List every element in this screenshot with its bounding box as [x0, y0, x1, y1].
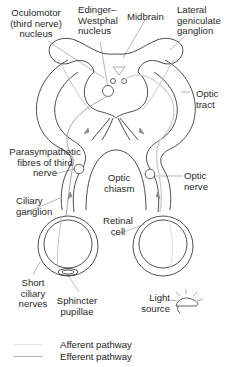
label-edinger-westphal-nucleus: Edinger– Westphal nucleus	[78, 5, 118, 37]
label-oculomotor-nucleus: Oculomotor (third nerve) nucleus	[6, 8, 66, 40]
efferent-swatch	[14, 356, 42, 357]
label-optic-tract: Optic tract	[196, 89, 218, 110]
legend-afferent: Afferent pathway	[14, 339, 132, 350]
pupillary-reflex-diagram: Oculomotor (third nerve) nucleus Edinger…	[0, 0, 231, 367]
label-short-ciliary-nerves: Short ciliary nerves	[15, 278, 51, 310]
afferent-swatch	[14, 344, 42, 345]
light-source-icon	[171, 289, 203, 313]
midbrain-shape	[49, 38, 183, 140]
label-optic-nerve: Optic nerve	[184, 171, 208, 192]
label-parasympathetic-fibres: Parasympathetic fibres of third nerve	[4, 147, 86, 179]
left-eyeball	[38, 216, 98, 276]
label-midbrain: Midbrain	[127, 12, 164, 23]
legend-efferent-label: Efferent pathway	[60, 351, 132, 362]
label-ciliary-ganglion: Ciliary ganglion	[16, 196, 52, 217]
right-eyeball	[133, 216, 193, 276]
legend-efferent: Efferent pathway	[14, 351, 132, 362]
label-lateral-geniculate-ganglion: Lateral geniculate ganglion	[177, 5, 221, 37]
legend-afferent-label: Afferent pathway	[60, 339, 132, 350]
nuclei	[103, 67, 127, 97]
label-optic-chiasm: Optic chiasm	[104, 173, 134, 194]
label-light-source: Light source	[136, 293, 170, 314]
label-sphincter-pupillae: Sphincter pupillae	[52, 296, 102, 317]
label-retinal-cell: Retinal cell	[100, 216, 136, 237]
